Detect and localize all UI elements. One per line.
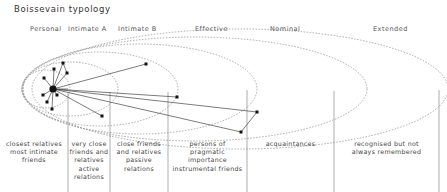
description-intimate-a: very close friends and relatives active … <box>68 140 110 181</box>
network-edges <box>43 63 257 132</box>
description-intimate-b: close friends and relatives passive rela… <box>110 140 168 173</box>
network-nodes <box>42 62 259 134</box>
description-effective: persons of pragmatic importance instrume… <box>168 140 247 173</box>
zone-ellipses <box>22 29 447 149</box>
description-extended: recognised but not always remembered <box>334 140 439 156</box>
ego-node <box>49 85 56 92</box>
description-nominal: acquaintances <box>247 140 334 148</box>
description-personal: closest relatives most intimate friends <box>2 140 66 165</box>
